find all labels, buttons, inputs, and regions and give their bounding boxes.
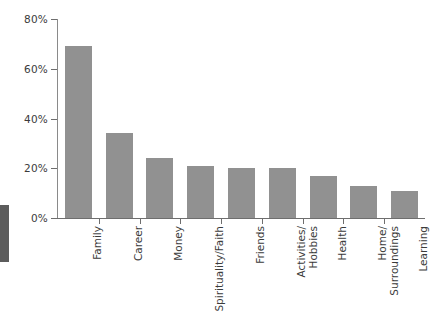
x-axis-tick-mark [180, 219, 181, 224]
x-axis-tick-mark [262, 219, 263, 224]
x-axis-label-line: Health [337, 226, 349, 260]
bar-spirituality-faith [187, 19, 214, 218]
x-axis-tick-marks [58, 219, 425, 224]
x-axis-label-line: Career [133, 226, 145, 261]
bar-rect [106, 133, 133, 218]
y-axis-tick-label: 20% [24, 162, 48, 174]
x-axis-label-line: Spirituality/Faith [214, 226, 226, 312]
x-axis-tick-mark [343, 219, 344, 224]
x-axis-label-line: Friends [255, 226, 267, 264]
bar-rect [228, 168, 255, 218]
bar-friends [228, 19, 255, 218]
bar-family [65, 19, 92, 218]
plot-area [58, 19, 425, 218]
x-axis-tick-mark [221, 219, 222, 224]
bar-learning [391, 19, 418, 218]
y-axis-tick-label: 60% [24, 63, 48, 75]
bar-career [106, 19, 133, 218]
y-axis-tick-label: 0% [31, 212, 48, 224]
bar-health [310, 19, 337, 218]
x-axis-label: Learning [418, 226, 434, 319]
x-axis-label-line: Learning [418, 226, 430, 272]
bar-rect [350, 186, 377, 218]
x-axis-label-line: Family [92, 226, 104, 260]
bar-rect [269, 168, 296, 218]
x-axis-label: Family [92, 226, 126, 319]
x-axis-label: Activities/Hobbies [296, 226, 330, 319]
x-axis-label: Friends [255, 226, 289, 319]
y-axis-tick-label: 80% [24, 13, 48, 25]
x-axis-category-labels: FamilyCareerMoneySpirituality/FaithFrien… [58, 226, 425, 319]
x-axis-label: Health [337, 226, 371, 319]
x-axis-label: Spirituality/Faith [214, 226, 248, 319]
x-axis-label-line: Activities/ [296, 226, 308, 277]
y-axis-tick-label: 40% [24, 113, 48, 125]
x-axis-tick-mark [140, 219, 141, 224]
x-axis-label: Home/Surroundings [377, 226, 411, 319]
bar-activities-hobbies [269, 19, 296, 218]
bar-rect [65, 46, 92, 218]
x-axis-label-line: Surroundings [389, 226, 401, 296]
y-axis-tick-labels: 0%20%40%60%80% [12, 0, 48, 319]
x-axis-label: Career [133, 226, 167, 319]
bar-home-surroundings [350, 19, 377, 218]
x-axis-tick-mark [384, 219, 385, 224]
x-axis-tick-mark [99, 219, 100, 224]
bar-chart: 0%20%40%60%80% FamilyCareerMoneySpiritua… [0, 0, 434, 319]
x-axis-label-line: Hobbies [307, 226, 319, 269]
bar-rect [146, 158, 173, 218]
bar-rect [187, 166, 214, 218]
x-axis-label-line: Money [173, 226, 185, 261]
x-axis-tick-mark [303, 219, 304, 224]
bar-rect [391, 191, 418, 218]
bar-money [146, 19, 173, 218]
x-axis-label: Money [173, 226, 207, 319]
bar-rect [310, 176, 337, 218]
